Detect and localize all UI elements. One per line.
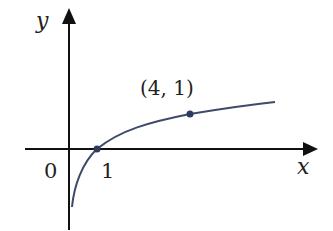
origin-label: 0	[44, 159, 57, 183]
graph-canvas	[0, 0, 333, 231]
point-label-1: 1	[101, 159, 114, 183]
point-4-1	[187, 111, 194, 118]
x-axis-label: x	[297, 154, 309, 179]
y-axis-label: y	[36, 8, 48, 33]
y-axis-arrow-icon	[62, 8, 76, 24]
point-1-0	[94, 146, 101, 153]
point-label-4-1: (4, 1)	[140, 76, 194, 100]
log-curve	[72, 102, 275, 207]
